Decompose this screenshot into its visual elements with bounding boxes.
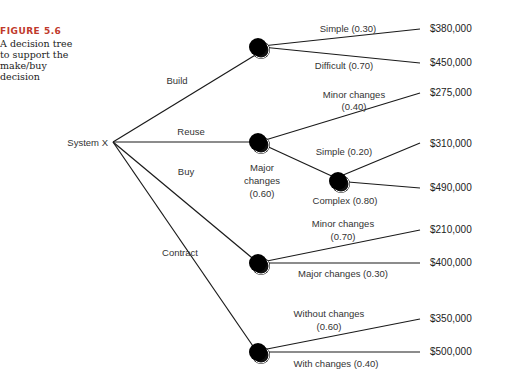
outcome-label-buy-minor-2: (0.70) [331, 231, 356, 242]
chance-node-build [249, 38, 270, 59]
root-label: System X [67, 137, 108, 148]
branch-label-build: Build [166, 75, 187, 86]
payoff-build-difficult: $450,000 [430, 57, 472, 68]
outcome-label-buy-major: Major changes (0.30) [298, 268, 388, 279]
payoff-contract-without: $350,000 [430, 313, 472, 324]
outcome-label-reuse-major-simple: Simple (0.20) [316, 146, 373, 157]
payoff-contract-with: $500,000 [430, 346, 472, 357]
outcome-label-reuse-minor-2: (0.40) [342, 101, 367, 112]
outcome-label-reuse-major-complex: Complex (0.80) [313, 195, 378, 206]
outcome-label-contract-without-1: Without changes [294, 308, 365, 319]
outcome-label-contract-with: With changes (0.40) [293, 358, 378, 369]
payoff-buy-major: $400,000 [430, 257, 472, 268]
payoff-reuse-major-complex: $490,000 [430, 182, 472, 193]
chance-node-reuse-major [329, 172, 350, 193]
outcome-label-reuse-minor-1: Minor changes [323, 89, 386, 100]
payoff-buy-minor: $210,000 [430, 224, 472, 235]
payoff-reuse-minor: $275,000 [430, 87, 472, 98]
outcome-label-build-simple: Simple (0.30) [320, 23, 377, 34]
outcome-label-reuse-major-3: (0.60) [250, 188, 275, 199]
outcome-label-reuse-major-1: Major [250, 162, 274, 173]
chance-node-reuse [249, 133, 270, 154]
decision-tree: System X Build Reuse Buy Contract Simple… [0, 0, 506, 386]
payoff-reuse-major-simple: $310,000 [430, 138, 472, 149]
branch-label-buy: Buy [178, 166, 195, 177]
outcome-label-buy-minor-1: Minor changes [312, 218, 375, 229]
branch-label-contract: Contract [162, 247, 198, 258]
outcome-label-build-difficult: Difficult (0.70) [315, 60, 373, 71]
chance-node-buy [249, 254, 270, 275]
chance-node-contract [249, 343, 270, 364]
outcome-label-reuse-major-2: changes [244, 175, 280, 186]
outcome-label-contract-without-2: (0.60) [317, 321, 342, 332]
edge-buy [113, 142, 257, 262]
payoff-build-simple: $380,000 [430, 23, 472, 34]
branch-label-reuse: Reuse [177, 126, 204, 137]
